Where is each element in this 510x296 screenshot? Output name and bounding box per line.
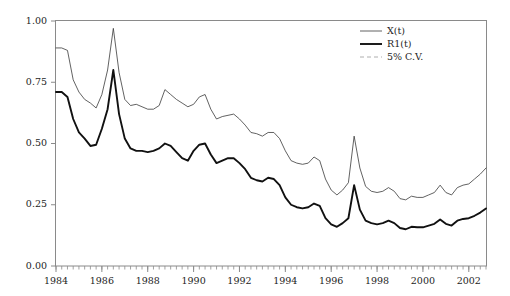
- x-tick-label: 1990: [182, 275, 206, 286]
- x-tick-label: 1994: [273, 275, 297, 286]
- chart-container: 0.000.250.500.751.00 1984198619881990199…: [0, 0, 510, 296]
- legend-label: R1(t): [387, 38, 411, 49]
- legend-label: X(t): [387, 25, 405, 36]
- y-tick-label: 0.00: [26, 260, 47, 271]
- x-axis-minor-ticks: [56, 266, 486, 270]
- x-axis-tick-labels: 1984198619881990199219941996199820002002: [44, 275, 481, 286]
- chart-legend: X(t)R1(t)5% C.V.: [360, 25, 423, 62]
- x-tick-label: 1992: [227, 275, 251, 286]
- legend-label: 5% C.V.: [387, 51, 423, 62]
- x-tick-label: 1986: [90, 275, 114, 286]
- y-axis-tick-labels: 0.000.250.500.751.00: [26, 15, 47, 271]
- x-tick-label: 2002: [457, 275, 481, 286]
- y-tick-label: 1.00: [26, 15, 47, 26]
- y-tick-label: 0.25: [26, 198, 47, 209]
- y-tick-label: 0.50: [26, 137, 47, 148]
- x-tick-label: 1988: [136, 275, 160, 286]
- y-tick-label: 0.75: [26, 76, 47, 87]
- x-tick-label: 2000: [411, 275, 435, 286]
- series-line: [56, 70, 486, 229]
- x-tick-label: 1996: [319, 275, 343, 286]
- line-chart-plot: 0.000.250.500.751.00 1984198619881990199…: [0, 0, 510, 296]
- x-tick-label: 1998: [365, 275, 389, 286]
- x-tick-label: 1984: [44, 275, 68, 286]
